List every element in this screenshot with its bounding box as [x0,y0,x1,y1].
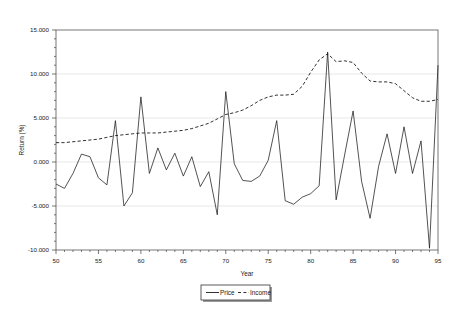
x-tick-label: 85 [350,257,357,264]
y-axis-title: Return (%) [18,125,26,156]
legend-label-income: Income [250,289,271,296]
x-tick-label: 55 [95,257,102,264]
x-tick-label: 90 [392,257,399,264]
y-tick-label: 10.000 [30,70,49,77]
series-line-income [56,54,438,143]
x-tick-label: 80 [307,257,314,264]
x-axis-group: 50556065707580859095 [53,250,442,264]
x-tick-label: 70 [222,257,229,264]
x-tick-label: 60 [137,257,144,264]
series-line-price [56,52,438,248]
y-tick-label: -10.000 [28,246,50,253]
chart-container: 15.00010.0005.0000.000-5.000-10.000 5055… [0,0,460,315]
x-tick-label: 75 [265,257,272,264]
gridlines-group [56,74,438,206]
y-tick-label: 5.000 [34,114,50,121]
x-tick-label: 95 [435,257,442,264]
x-axis-title: Year [241,270,255,277]
x-tick-label: 65 [180,257,187,264]
return-vs-year-line-chart: 15.00010.0005.0000.000-5.000-10.000 5055… [0,0,460,315]
x-tick-label: 50 [53,257,60,264]
y-axis-group: 15.00010.0005.0000.000-5.000-10.000 [28,26,56,253]
legend: Price Income [201,285,272,302]
y-tick-label: 15.000 [30,26,49,33]
plot-area-frame [56,30,438,250]
legend-label-price: Price [220,289,235,296]
y-tick-label: -5.000 [31,202,49,209]
y-tick-label: 0.000 [34,158,50,165]
